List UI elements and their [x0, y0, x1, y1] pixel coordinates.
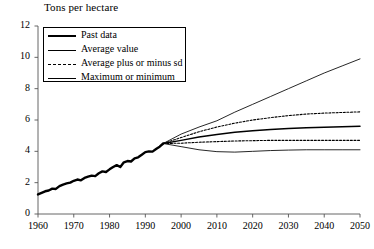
xtick-label: 2020: [236, 220, 270, 231]
chart-figure: Tons per hectare 024681012 1960197019801…: [0, 0, 374, 249]
legend-item-maximum-minimum: Maximum or minimum: [48, 72, 185, 85]
ytick-label: 6: [6, 113, 30, 124]
legend-swatch-average-value: [48, 50, 76, 51]
ytick-label: 10: [6, 50, 30, 61]
xtick-label: 1970: [57, 220, 91, 231]
legend-label-maximum-minimum: Maximum or minimum: [81, 71, 175, 82]
legend-label-average-sd: Average plus or minus sd: [81, 57, 182, 68]
legend-swatch-maximum-minimum: [48, 78, 76, 79]
xtick-label: 1990: [128, 220, 162, 231]
xtick-label: 2000: [164, 220, 198, 231]
series-line: [38, 144, 163, 195]
ytick-label: 8: [6, 82, 30, 93]
legend-item-average-value: Average value: [48, 44, 185, 57]
legend-label-average-value: Average value: [81, 43, 138, 54]
xtick-label: 2040: [307, 220, 341, 231]
xtick-label: 1980: [93, 220, 127, 231]
ytick-label: 2: [6, 176, 30, 187]
legend-item-average-sd: Average plus or minus sd: [48, 58, 185, 71]
series-line: [163, 144, 360, 153]
xtick-label: 2050: [343, 220, 374, 231]
legend-swatch-average-sd: [48, 64, 76, 65]
legend-item-past-data: Past data: [48, 30, 185, 43]
ytick-label: 0: [6, 207, 30, 218]
ytick-label: 12: [6, 19, 30, 30]
chart-legend: Past data Average value Average plus or …: [43, 27, 186, 82]
series-line: [163, 59, 360, 144]
xtick-label: 2010: [200, 220, 234, 231]
series-line: [163, 140, 360, 143]
xtick-label: 1960: [21, 220, 55, 231]
xtick-label: 2030: [271, 220, 305, 231]
legend-label-past-data: Past data: [81, 29, 117, 40]
legend-swatch-past-data: [48, 35, 76, 37]
ytick-label: 4: [6, 144, 30, 155]
